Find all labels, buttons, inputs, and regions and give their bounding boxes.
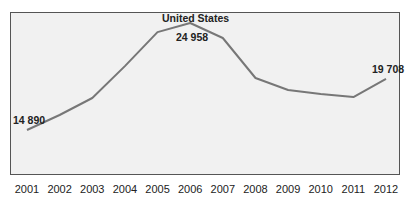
data-label-2006: 24 958 (176, 31, 208, 43)
x-axis-labels: 2001200220032004200520062007200820092010… (0, 183, 410, 199)
series-title: United States (162, 12, 229, 24)
x-tick-label-2012: 2012 (366, 183, 406, 195)
line-chart: United States 14 890 24 958 19 708 (0, 0, 410, 207)
data-label-2012: 19 708 (372, 63, 404, 75)
data-label-2001: 14 890 (13, 114, 45, 126)
